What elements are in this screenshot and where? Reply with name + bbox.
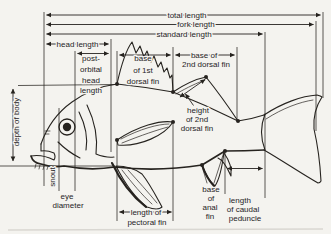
label-peduncle-line1: length bbox=[229, 196, 251, 205]
measurement-reference-lines bbox=[0, 12, 323, 221]
label-total-length: total length bbox=[167, 11, 206, 20]
label-height-2nd-dorsal-line3: dorsal fin bbox=[181, 124, 213, 133]
peduncle-start-dot bbox=[223, 149, 227, 153]
fish-back-outline bbox=[41, 84, 264, 144]
label-base-2nd-dorsal-line1: base of bbox=[191, 51, 218, 60]
label-post-orbital-line4: length bbox=[80, 86, 102, 95]
label-anal-line1: base bbox=[202, 185, 220, 194]
label-anal-line3: anal bbox=[202, 203, 217, 212]
label-height-2nd-dorsal-line2: of 2nd bbox=[186, 115, 208, 124]
label-base-2nd-dorsal-line2: 2nd dorsal fin bbox=[182, 60, 230, 69]
label-anal-line2: of bbox=[208, 194, 215, 203]
label-snout: snout bbox=[48, 166, 57, 186]
fish-measurement-diagram: total length fork length standard length… bbox=[0, 0, 331, 234]
label-base-1st-dorsal-line2: of 1st bbox=[133, 66, 153, 75]
dorsal1-origin-dot bbox=[115, 82, 119, 86]
pelvic-fin bbox=[116, 166, 162, 209]
fish-mouth bbox=[31, 144, 55, 160]
label-depth-of-body: depth of body bbox=[12, 98, 21, 146]
anal-origin-dot bbox=[200, 163, 204, 167]
gill-cover-arcs bbox=[58, 105, 114, 158]
label-eye-diameter-line2: diameter bbox=[52, 201, 83, 210]
label-anal-line4: fin bbox=[206, 212, 214, 221]
scan-artifact-line bbox=[8, 229, 323, 230]
label-peduncle-line2: of caudal bbox=[227, 205, 260, 214]
anal-fin bbox=[202, 152, 224, 186]
height-2nd-dorsal-arrow bbox=[180, 80, 205, 98]
fish-eye-pupil bbox=[63, 123, 71, 131]
label-pectoral-line2: pectoral fin bbox=[127, 218, 166, 227]
label-base-1st-dorsal-line1: base bbox=[134, 54, 152, 63]
label-post-orbital-line2: orbital bbox=[80, 65, 102, 74]
labels: total length fork length standard length… bbox=[12, 11, 262, 227]
diagram-canvas: total length fork length standard length… bbox=[0, 0, 331, 234]
label-post-orbital-line1: post- bbox=[82, 54, 100, 63]
label-head-length: head length bbox=[57, 40, 99, 49]
label-eye-diameter-line1: eye bbox=[61, 192, 74, 201]
label-post-orbital-line3: head bbox=[82, 76, 100, 85]
anal-fin-leading-edge bbox=[202, 165, 214, 186]
label-base-1st-dorsal-line3: dorsal fin bbox=[127, 77, 159, 86]
caudal-fin-base-arc bbox=[262, 114, 266, 150]
dorsal2-end-dot bbox=[236, 119, 240, 123]
label-height-2nd-dorsal-line1: height bbox=[187, 106, 210, 115]
label-fork-length: fork length bbox=[177, 20, 214, 29]
pectoral-origin-dot bbox=[115, 138, 119, 142]
pectoral-tip-dot bbox=[171, 120, 175, 124]
label-peduncle-line3: peduncle bbox=[229, 214, 262, 223]
caudal-fin bbox=[264, 95, 322, 183]
label-standard-length: standard length bbox=[156, 30, 211, 39]
label-pectoral-line1: length of bbox=[131, 208, 162, 217]
dorsal1-end-dot bbox=[171, 90, 175, 94]
dorsal2-tip-dot bbox=[204, 75, 208, 79]
